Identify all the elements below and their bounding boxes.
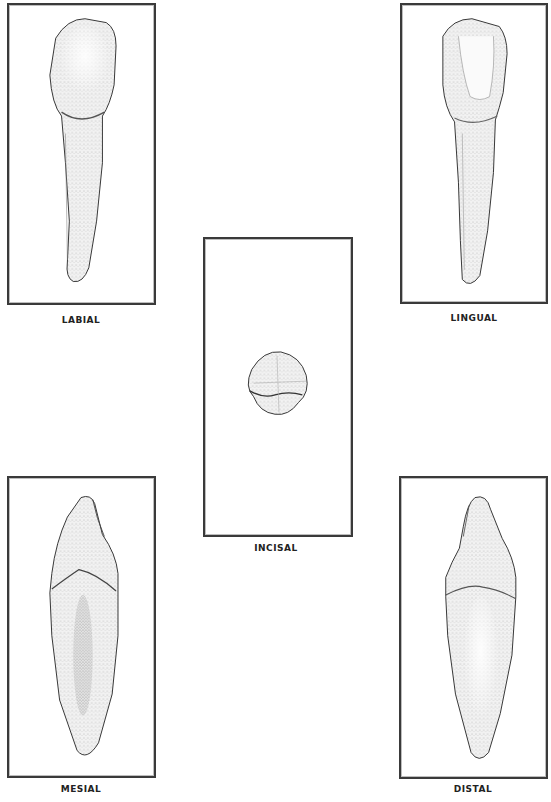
incisal-tooth-illustration [205, 239, 351, 535]
labial-tooth-illustration [9, 5, 154, 303]
incisal-view-frame [203, 237, 353, 537]
lingual-view-frame [400, 3, 548, 304]
incisal-label: INCISAL [196, 543, 356, 553]
distal-view-frame [399, 476, 548, 779]
distal-tooth-illustration [401, 478, 546, 777]
mesial-label: MESIAL [1, 784, 161, 794]
mesial-view-frame [7, 476, 156, 778]
distal-label: DISTAL [393, 784, 551, 794]
lingual-label: LINGUAL [394, 313, 551, 323]
mesial-tooth-illustration [9, 478, 154, 776]
labial-label: LABIAL [1, 315, 161, 325]
lingual-tooth-illustration [402, 5, 546, 302]
labial-view-frame [7, 3, 156, 305]
